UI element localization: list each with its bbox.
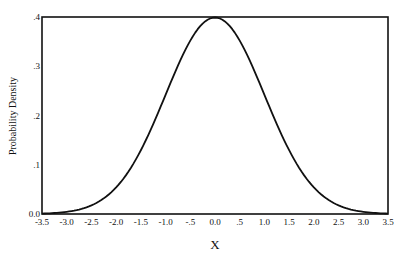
x-tick-label: 3.0 — [358, 217, 370, 227]
x-tick-label: -1.0 — [158, 217, 173, 227]
normal-density-chart: 0.0.1.2.3.4 -3.5-3.0-2.5-2.0-1.5-1.0-.50… — [0, 0, 404, 265]
x-tick-label: 0.0 — [209, 217, 221, 227]
x-tick-label: 1.0 — [259, 217, 271, 227]
x-tick-label: -.5 — [185, 217, 195, 227]
x-tick-label: -3.5 — [35, 217, 50, 227]
y-tick-label: .1 — [33, 160, 40, 170]
x-tick-label: 2.5 — [333, 217, 345, 227]
y-axis-title: Probability Density — [7, 77, 18, 155]
x-tick-label: 1.5 — [284, 217, 296, 227]
y-tick-label: .4 — [33, 12, 40, 22]
y-tick-label: .2 — [33, 111, 40, 121]
x-tick-label: -2.5 — [84, 217, 99, 227]
x-tick-label: -3.0 — [60, 217, 75, 227]
x-tick-label: -2.0 — [109, 217, 124, 227]
density-curve — [42, 18, 388, 214]
x-tick-label: .5 — [236, 217, 243, 227]
x-tick-label: 3.5 — [382, 217, 394, 227]
x-axis-title: X — [210, 237, 220, 252]
x-tick-label: 2.0 — [308, 217, 320, 227]
y-axis-ticks: 0.0.1.2.3.4 — [29, 12, 41, 219]
plot-frame — [42, 17, 388, 214]
x-axis-ticks: -3.5-3.0-2.5-2.0-1.5-1.0-.50.0.51.01.52.… — [35, 217, 394, 227]
x-tick-label: -1.5 — [134, 217, 149, 227]
y-tick-label: .3 — [33, 61, 40, 71]
